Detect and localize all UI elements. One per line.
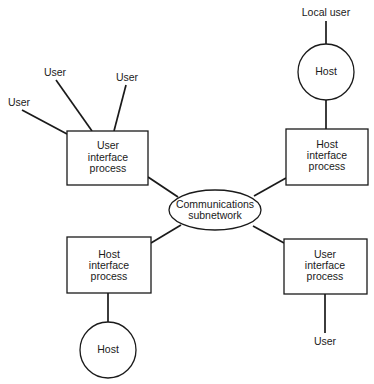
host-label: Host bbox=[97, 343, 119, 355]
edge-comm-to-uip-bottomright bbox=[253, 226, 284, 243]
box-label-line3: process bbox=[90, 162, 127, 174]
edge-hip-topright-to-comm bbox=[254, 178, 286, 196]
user-label-bottomright: User bbox=[314, 335, 337, 347]
edge-hip-bottomleft-to-comm bbox=[151, 225, 181, 243]
user-label-3: User bbox=[116, 71, 139, 83]
edge-user3-to-uip-topleft bbox=[114, 85, 126, 131]
user-label-1: User bbox=[8, 96, 31, 108]
edge-user1-to-uip-topleft bbox=[22, 110, 67, 134]
edge-uip-topleft-to-comm bbox=[148, 177, 178, 197]
host-interface-process-topright: Host interface process bbox=[286, 129, 368, 185]
box-label-line3: process bbox=[309, 160, 346, 172]
communications-subnetwork: Communications subnetwork bbox=[169, 190, 261, 230]
host-interface-process-bottomleft: Host interface process bbox=[67, 237, 151, 293]
edge-user2-to-uip-topleft bbox=[56, 80, 92, 131]
box-label-line3: process bbox=[91, 270, 128, 282]
user-label-2: User bbox=[44, 66, 67, 78]
subnetwork-label-line2: subnetwork bbox=[188, 209, 242, 221]
host-bottomleft: Host bbox=[80, 322, 136, 378]
local-user-label: Local user bbox=[302, 6, 351, 18]
network-diagram: User interface process User User User Lo… bbox=[0, 0, 374, 384]
host-label: Host bbox=[315, 65, 337, 77]
user-interface-process-topleft: User interface process bbox=[67, 131, 148, 185]
box-label-line1: User bbox=[97, 139, 120, 151]
host-topright: Host bbox=[298, 44, 354, 100]
user-interface-process-bottomright: User interface process bbox=[284, 239, 367, 294]
box-label-line3: process bbox=[307, 270, 344, 282]
